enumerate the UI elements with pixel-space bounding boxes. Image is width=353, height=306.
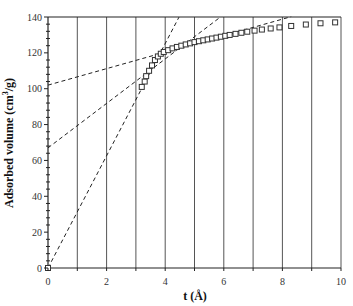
square-marker-icon	[252, 28, 257, 33]
square-marker-icon	[227, 32, 232, 37]
y-axis-title-main: Adsorbed volume (cm	[2, 95, 16, 208]
x-tick-label: 0	[46, 276, 51, 287]
square-marker-icon	[318, 21, 323, 26]
x-axis-ticks: 0246810	[46, 268, 347, 287]
y-tick-label: 100	[27, 83, 42, 94]
y-tick-label: 140	[27, 12, 42, 23]
vertical-grid-lines	[77, 17, 341, 268]
fit-lines	[48, 17, 291, 268]
y-axis-ticks: 020406080100120140	[27, 12, 50, 274]
x-tick-label: 8	[280, 276, 285, 287]
square-marker-icon	[303, 22, 308, 27]
square-marker-icon	[142, 79, 147, 84]
square-marker-icon	[150, 63, 155, 68]
y-tick-label: 0	[37, 263, 42, 274]
square-marker-icon	[333, 20, 338, 25]
y-tick-label: 20	[32, 227, 42, 238]
square-marker-icon	[289, 23, 294, 28]
y-tick-label: 80	[32, 119, 42, 130]
y-axis-title: Adsorbed volume (cm3/g)	[1, 78, 16, 208]
square-marker-icon	[239, 30, 244, 35]
square-marker-icon	[277, 25, 282, 30]
y-tick-label: 120	[27, 47, 42, 58]
t-plot-chart: 0246810 020406080100120140 t (Å) Adsorbe…	[0, 0, 353, 306]
data-points	[46, 20, 338, 271]
y-tick-label: 40	[32, 191, 42, 202]
square-marker-icon	[233, 31, 238, 36]
x-tick-label: 10	[336, 276, 346, 287]
square-marker-icon	[144, 74, 149, 79]
square-marker-icon	[147, 68, 152, 73]
square-marker-icon	[245, 29, 250, 34]
x-tick-label: 2	[104, 276, 109, 287]
x-axis-title: t (Å)	[183, 289, 207, 303]
x-tick-label: 4	[163, 276, 168, 287]
y-tick-label: 60	[32, 155, 42, 166]
square-marker-icon	[259, 27, 264, 32]
square-marker-icon	[139, 84, 144, 89]
y-axis-title-tail: /g)	[2, 78, 16, 92]
x-tick-label: 6	[221, 276, 226, 287]
square-marker-icon	[268, 26, 273, 31]
